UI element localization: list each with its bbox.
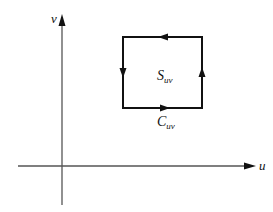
region-label-subscript: uv [164, 75, 173, 85]
region-label: Suv [157, 68, 173, 85]
top-edge-arrow-icon [158, 34, 168, 41]
region-label-main: S [157, 68, 164, 83]
v-axis-label: v [51, 11, 57, 26]
v-axis-arrow-icon [59, 14, 66, 26]
u-axis-label: u [259, 158, 266, 173]
left-edge-arrow-icon [120, 68, 127, 78]
boundary-label: Cuv [157, 114, 175, 131]
boundary-label-subscript: uv [166, 121, 175, 131]
u-axis-arrow-icon [244, 163, 256, 170]
right-edge-arrow-icon [199, 67, 206, 77]
bottom-edge-arrow-icon [160, 105, 170, 112]
uv-plane-diagram: v u Suv Cuv [0, 0, 273, 212]
